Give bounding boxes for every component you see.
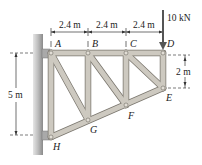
joint-label-g: G: [90, 124, 97, 135]
member-he: [51, 88, 163, 137]
load-arrow: 10 kN: [159, 10, 191, 50]
height-dimension-de: 2 m: [168, 55, 191, 88]
joint-label-b: B: [92, 38, 98, 49]
member-bf: [88, 53, 126, 105]
pin-h: [49, 135, 53, 139]
joint-label-d: D: [166, 38, 175, 49]
load-label: 10 kN: [167, 13, 191, 23]
pin-b: [86, 51, 90, 55]
arrow-down-icon: [159, 42, 167, 50]
dim-ah-label: 5 m: [8, 90, 23, 100]
member-ag: [51, 53, 88, 120]
pin-a: [49, 51, 53, 55]
joint-label-c: C: [130, 38, 137, 49]
dim-cd-label: 2.4 m: [133, 20, 155, 30]
pin-f: [124, 103, 128, 107]
pin-d: [161, 51, 165, 55]
joint-label-a: A: [54, 38, 62, 49]
joint-label-f: F: [127, 110, 135, 121]
truss-members: [51, 53, 163, 137]
joint-label-e: E: [165, 92, 172, 103]
joint-label-h: H: [52, 141, 61, 152]
pin-c: [124, 51, 128, 55]
height-dimension-ah: 5 m: [8, 53, 33, 135]
dim-ab-label: 2.4 m: [59, 20, 81, 30]
wall-support: [33, 34, 43, 155]
truss-diagram: 2.4 m 2.4 m 2.4 m 10 kN A B C D E F G H …: [0, 0, 202, 165]
pin-e: [161, 86, 165, 90]
member-ce: [126, 53, 163, 88]
span-dimensions: 2.4 m 2.4 m 2.4 m: [51, 20, 163, 47]
pin-g: [86, 118, 90, 122]
dim-de-label: 2 m: [176, 67, 191, 77]
dim-bc-label: 2.4 m: [96, 20, 118, 30]
